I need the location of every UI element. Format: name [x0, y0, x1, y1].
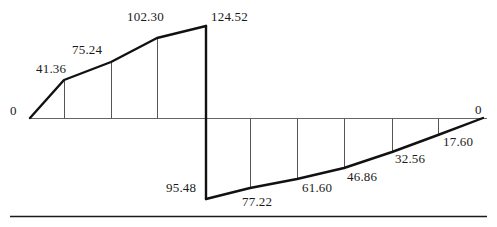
label-zero-right: 0: [475, 103, 482, 116]
label-value-17: 17.60: [443, 135, 473, 148]
label-value-102: 102.30: [127, 10, 164, 23]
label-value-32: 32.56: [395, 152, 425, 165]
label-zero-left: 0: [10, 104, 17, 117]
label-value-124: 124.52: [211, 10, 248, 23]
label-value-46: 46.86: [347, 170, 377, 183]
label-value-41: 41.36: [36, 62, 66, 75]
label-value-77: 77.22: [242, 195, 272, 208]
diagram-canvas: [0, 0, 497, 227]
label-value-61: 61.60: [302, 181, 332, 194]
label-value-75: 75.24: [72, 43, 102, 56]
label-value-95: 95.48: [166, 181, 196, 194]
shear-force-diagram: 0 41.36 75.24 102.30 124.52 95.48 77.22 …: [0, 0, 497, 227]
